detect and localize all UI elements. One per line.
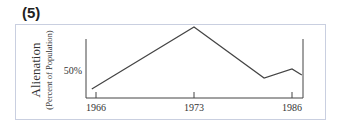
x-tick-label-1986: 1986 [282, 102, 302, 113]
x-tick-label-1966: 1966 [86, 102, 106, 113]
y-axis-sublabel: (Percent of Population) [44, 30, 54, 109]
y-tick-label-50: 50% [64, 65, 82, 76]
alienation-line-chart: 196619731986 50% Alienation (Percent of … [0, 0, 341, 132]
series-line-alienation [92, 27, 302, 89]
x-tick-label-1973: 1973 [184, 102, 204, 113]
y-axis-label: Alienation [28, 42, 43, 97]
